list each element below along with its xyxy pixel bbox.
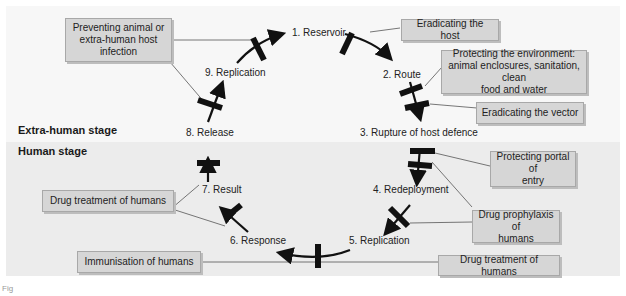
box-drug-prophylaxis: Drug prophylaxis ofhumans [472,210,560,243]
figure-caption: Fig [2,284,13,293]
box-preventing-animal-infection: Preventing animal orextra-human hostinfe… [65,18,172,62]
box-eradicating-host: Eradicating the host [401,19,499,41]
node-replication-5: 5. Replication [349,235,410,246]
node-redeployment: 4. Redeployment [373,184,449,195]
box-drug-treatment-right: Drug treatment of humans [438,255,560,276]
node-replication-9: 9. Replication [205,67,266,78]
box-immunisation: Immunisation of humans [77,251,201,273]
node-rupture-of-host-defence: 3. Rupture of host defence [360,127,478,138]
box-eradicating-vector: Eradicating the vector [476,102,584,124]
node-response: 6. Response [230,235,286,246]
node-reservoir: 1. Reservoir [292,27,346,38]
box-drug-treatment-left: Drug treatment of humans [42,190,174,212]
box-protecting-portal-of-entry: Protecting portal ofentry [490,151,576,187]
box-protecting-environment: Protecting the environment:animal enclos… [441,50,587,94]
node-release: 8. Release [186,127,234,138]
node-route: 2. Route [383,69,421,80]
node-result: 7. Result [202,184,241,195]
